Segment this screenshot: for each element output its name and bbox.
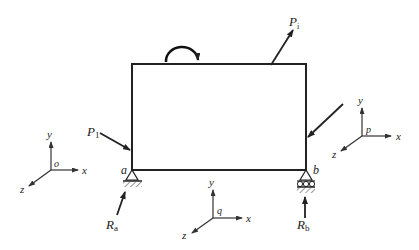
svg-text:p: p (365, 124, 371, 135)
rigid-body (132, 64, 306, 170)
corner-label-a: a (121, 163, 127, 177)
reaction-Ra-label: Ra (105, 217, 118, 233)
reaction-Ra: Ra (105, 192, 125, 233)
coordinate-frame-q: y x z q (181, 176, 251, 241)
svg-text:z: z (19, 183, 25, 195)
svg-text:x: x (395, 130, 401, 142)
svg-text:o: o (54, 158, 59, 169)
force-P1: P1 (86, 124, 130, 150)
svg-text:q: q (217, 205, 222, 216)
moment-icon (166, 47, 198, 62)
svg-text:x: x (245, 212, 251, 224)
svg-text:y: y (357, 94, 363, 106)
force-P1-label: P1 (86, 124, 99, 140)
svg-text:y: y (46, 128, 52, 140)
corner-label-b: b (313, 163, 319, 177)
coordinate-frame-p: y x z p (331, 94, 401, 160)
svg-text:z: z (331, 148, 337, 160)
force-Pi-label: Pi (288, 14, 300, 31)
force-right (308, 104, 343, 137)
svg-text:y: y (208, 176, 214, 188)
coordinate-frame-o: y x z o (19, 128, 87, 195)
svg-text:x: x (81, 164, 87, 176)
roller-support-b: b (297, 163, 319, 193)
svg-text:z: z (181, 229, 187, 241)
force-Pi: Pi (271, 14, 300, 65)
reaction-Rb: Rb (296, 197, 310, 233)
free-body-diagram: Pi P1 a Ra b Rb y (0, 0, 419, 250)
reaction-Rb-label: Rb (296, 217, 310, 233)
